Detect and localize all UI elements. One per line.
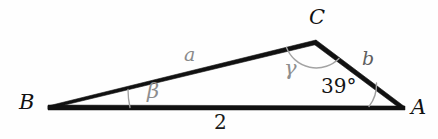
side-label-base-length: 2 [214, 112, 227, 132]
triangle-figure: B C A a b 2 β γ 39° [0, 0, 438, 139]
angle-label-beta: β [147, 81, 159, 102]
angle-label-gamma: γ [284, 58, 297, 79]
vertex-label-c: C [309, 7, 325, 28]
side-label-b: b [362, 49, 374, 68]
vertex-label-b: B [19, 92, 34, 113]
side-label-a: a [184, 45, 195, 64]
angle-arc-b [128, 90, 130, 108]
side-bc-line [48, 40, 316, 109]
angle-label-39-degrees: 39° [321, 76, 356, 96]
vertex-label-a: A [411, 97, 426, 118]
